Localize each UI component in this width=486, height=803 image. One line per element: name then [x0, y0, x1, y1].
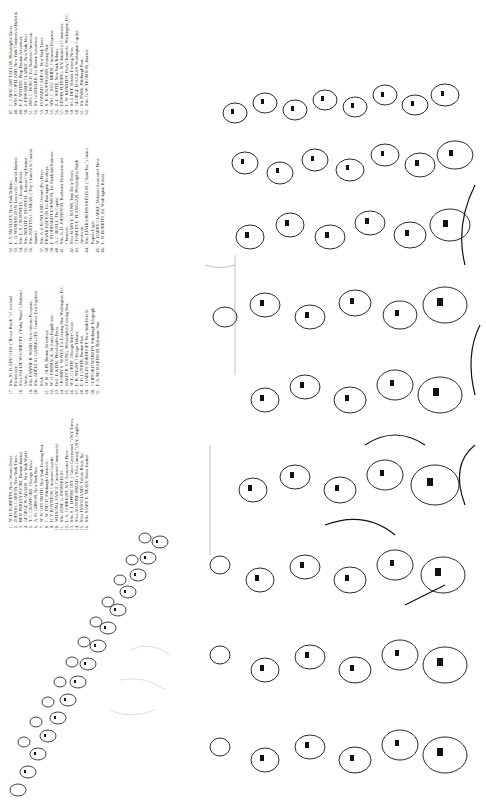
crowd-strip-illustration — [0, 530, 180, 803]
key-entry: 62.Mrs. G. W. THOMSON, Journal. — [84, 0, 89, 118]
key-entry: 46.L. N. BURRITT, Ed. Washington Herald. — [100, 146, 105, 256]
entry-text: Mrs. A. D. JOHNSTON, Rochester Democrat … — [59, 146, 69, 244]
entry-text: Mrs. ELVIRA BLISS SHELDON, ("Aunt Tue,")… — [84, 146, 94, 244]
entry-text: Mrs. MARY E. NEALY, Home Journal. — [84, 454, 89, 522]
entry-number: 17. — [8, 386, 18, 398]
key-entry: 18.Miss SALLIE WOODBURY, ("Ruby Wood,") … — [18, 280, 28, 398]
entry-text: CHARLES L. FLANAGAN, Philadelphia North … — [74, 146, 84, 244]
key-list-1-16: 1.W. H. ROBERTS, New Orleans Times.2.JOH… — [8, 404, 188, 534]
key-entry: 44.Mrs. ELVIRA BLISS SHELDON, ("Aunt Tue… — [84, 146, 94, 256]
entry-text: F. A. RICHARDSON, Baltimore Sun. — [95, 321, 100, 386]
entry-number: 20. — [33, 386, 43, 398]
key-band-47-62: 47.C. CATHCART TAYLOR, Philadelphia Time… — [8, 0, 188, 120]
key-entry: 36.Mrs. JAYETTA C. SNEAD, ("Fay") Louisv… — [28, 146, 38, 256]
key-entries: 17.Mrs. M. D. LINCOLN, ("Bessie Beech,")… — [8, 280, 100, 398]
key-entries: 47.C. CATHCART TAYLOR, Philadelphia Time… — [8, 0, 90, 118]
entry-text: Mrs. M. D. LINCOLN, ("Bessie Beech,") Cl… — [8, 280, 18, 386]
entry-number: 41. — [59, 244, 69, 256]
entry-text: L. N. BURRITT, Ed. Washington Herald. — [100, 173, 105, 244]
key-band-1-16: 1.W. H. ROBERTS, New Orleans Times.2.JOH… — [8, 404, 188, 536]
key-entry: 20.Mrs. ADÈLE M. GARRIGUES, Courier, Eas… — [33, 280, 43, 398]
entry-text: Mrs. G. W. THOMSON, Journal. — [84, 49, 89, 106]
crowd-main-drawing — [205, 65, 486, 803]
key-entries: 1.W. H. ROBERTS, New Orleans Times.2.JOH… — [8, 404, 90, 534]
key-list-17-31: 17.Mrs. M. D. LINCOLN, ("Bessie Beech,")… — [8, 280, 188, 398]
key-entries: 32.E. V. SMALLEY, New York Tribune.33.L.… — [8, 146, 105, 256]
entry-number: 36. — [28, 244, 38, 256]
entry-text: Miss SALLIE WOODBURY, ("Ruby Wood,") Nat… — [18, 280, 28, 386]
key-band-17-31: 17.Mrs. M. D. LINCOLN, ("Bessie Beech,")… — [8, 280, 188, 400]
entry-number: 44. — [84, 244, 94, 256]
entry-number: 43. — [74, 244, 84, 256]
entry-number: 31. — [95, 386, 100, 398]
key-entry: 41.Mrs. A. D. JOHNSTON, Rochester Democr… — [59, 146, 69, 256]
entry-text: Mrs. JAYETTA C. SNEAD, ("Fay") Louisvill… — [28, 146, 38, 244]
key-list-32-46: 32.E. V. SMALLEY, New York Tribune.33.L.… — [8, 146, 188, 256]
crowd-main-illustration — [205, 65, 486, 803]
key-band-32-46: 32.E. V. SMALLEY, New York Tribune.33.L.… — [8, 146, 188, 258]
entry-number: 62. — [84, 106, 89, 118]
crowd-strip-drawing — [0, 530, 180, 803]
entry-number: 18. — [18, 386, 28, 398]
entry-number: 46. — [100, 244, 105, 256]
key-list-47-62: 47.C. CATHCART TAYLOR, Philadelphia Time… — [8, 0, 188, 118]
key-entry: 43.CHARLES L. FLANAGAN, Philadelphia Nor… — [74, 146, 84, 256]
key-entry: 17.Mrs. M. D. LINCOLN, ("Bessie Beech,")… — [8, 280, 18, 398]
key-entry: 16.Mrs. MARY E. NEALY, Home Journal. — [84, 404, 89, 534]
key-entry: 31.F. A. RICHARDSON, Baltimore Sun. — [95, 280, 100, 398]
entry-text: Mrs. ADÈLE M. GARRIGUES, Courier, East S… — [33, 280, 43, 386]
